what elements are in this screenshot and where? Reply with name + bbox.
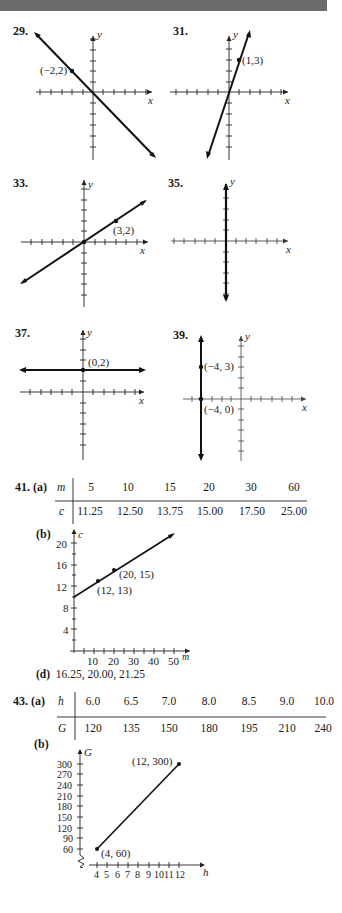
y-tick-label: 180 bbox=[57, 801, 72, 812]
x-tick-label: 11 bbox=[164, 869, 174, 880]
y-tick-label: 240 bbox=[57, 780, 72, 791]
x-tick-label: 7 bbox=[125, 869, 130, 880]
x-tick-label: 6 bbox=[115, 869, 120, 880]
y-axis-label: G bbox=[84, 746, 92, 758]
x-tick-label: 12 bbox=[175, 869, 185, 880]
x-tick-label: 4 bbox=[94, 869, 99, 880]
x-axis-label: h bbox=[203, 866, 209, 878]
y-tick-label: 60 bbox=[63, 844, 73, 855]
x-tick-label: 8 bbox=[135, 869, 140, 880]
point-label-2: (12, 300) bbox=[132, 755, 172, 767]
x-tick-label: 5 bbox=[104, 869, 109, 880]
point-label-1: (4, 60) bbox=[101, 847, 130, 859]
graph-43b bbox=[0, 0, 342, 913]
x-tick-label: 10 bbox=[154, 869, 164, 880]
y-tick-label: 270 bbox=[57, 769, 72, 780]
y-tick-label: 150 bbox=[57, 812, 72, 823]
y-tick-label: 90 bbox=[63, 833, 73, 844]
x-tick-label: 9 bbox=[146, 869, 151, 880]
